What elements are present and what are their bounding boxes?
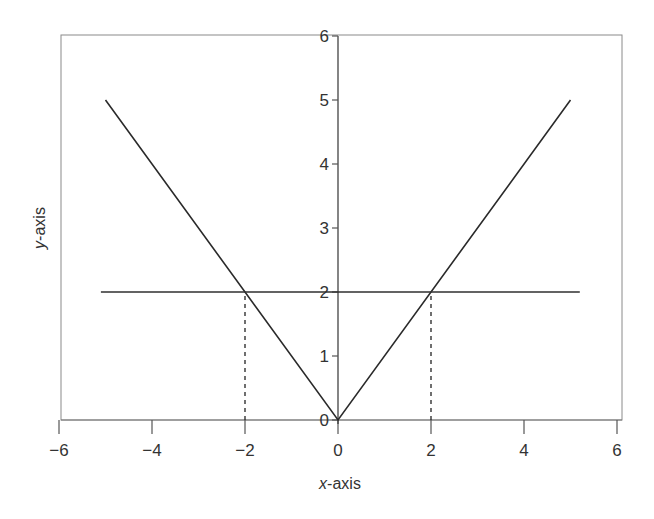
y-tick-label: 0 [320,411,329,430]
x-tick-label: 2 [426,441,435,460]
x-tick-label: 0 [333,441,342,460]
y-axis-label: y-axis [31,207,48,250]
y-tick-label: 4 [320,155,329,174]
x-axis: −6−4−20246 [49,420,622,460]
chart: −6−4−20246 0123456 x-axis y-axis [0,0,654,519]
x-tick-label: −6 [49,441,68,460]
y-axis: 0123456 [320,27,338,430]
x-tick-label: −4 [142,441,161,460]
x-tick-label: 6 [612,441,621,460]
y-axis-label-rest: -axis [31,207,48,241]
x-axis-label: x-axis [318,475,361,492]
x-axis-label-rest: -axis [327,475,361,492]
y-tick-label: 5 [320,91,329,110]
series-layer [101,100,580,420]
y-tick-label: 3 [320,219,329,238]
y-tick-label: 1 [320,347,329,366]
x-tick-label: −2 [235,441,254,460]
x-tick-label: 4 [519,441,528,460]
plot-frame [61,35,622,420]
y-tick-label: 6 [320,27,329,46]
